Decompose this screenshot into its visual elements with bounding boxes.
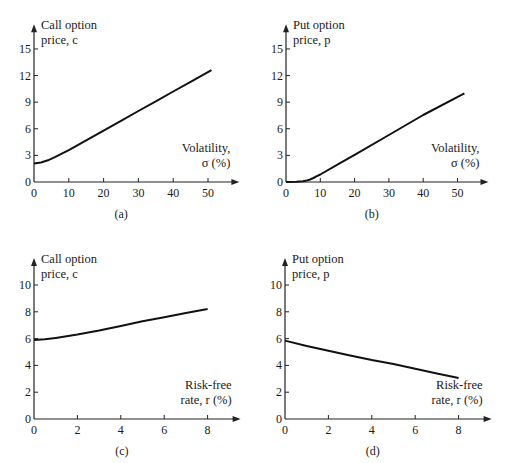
y-tick-label: 12 [271,69,283,83]
y-tick-label: 10 [270,278,282,292]
y-tick-label: 0 [277,175,283,189]
y-arrow-icon [283,24,289,32]
y-axis-label: Put option [293,18,345,32]
y-tick-label: 2 [25,385,31,399]
x-tick-label: 2 [74,423,80,437]
x-tick-label: 30 [132,186,144,200]
x-tick-label: 6 [412,423,418,437]
x-tick-label: 10 [63,186,75,200]
chart-d: 024680246810Put optionprice, pRisk-freer… [270,252,492,458]
y-tick-label: 9 [277,95,283,109]
y-tick-label: 0 [25,412,31,426]
x-axis-label: rate, r (%) [432,393,483,407]
x-tick-label: 10 [314,186,326,200]
data-line [34,309,208,340]
x-tick-label: 0 [283,186,289,200]
x-axis-label: Risk-free [185,378,232,392]
x-tick-label: 20 [349,186,361,200]
y-tick-label: 9 [25,95,31,109]
x-tick-label: 0 [31,423,37,437]
x-arrow-icon [481,179,489,185]
x-tick-label: 6 [161,423,167,437]
y-arrow-icon [31,24,37,32]
y-tick-label: 6 [25,332,31,346]
x-tick-label: 50 [452,186,464,200]
data-line [286,93,464,182]
y-axis-label: price, c [41,267,78,281]
chart-a: 0102030405003691215Call optionprice, cVo… [19,18,239,221]
x-axis-label: Volatility, [182,141,231,155]
y-tick-label: 3 [277,148,283,162]
x-arrow-icon [484,416,492,422]
y-arrow-icon [31,258,37,266]
y-tick-label: 0 [276,412,282,426]
y-axis-label: Call option [41,18,98,32]
y-axis-label: price, c [41,33,78,47]
x-tick-label: 0 [31,186,37,200]
y-axis-label: price, p [293,33,330,47]
y-axis-label: price, p [292,267,329,281]
data-line [285,341,459,379]
y-tick-label: 8 [25,305,31,319]
y-tick-label: 15 [19,42,31,56]
x-arrow-icon [233,416,241,422]
y-tick-label: 6 [277,122,283,136]
x-tick-label: 0 [282,423,288,437]
x-tick-label: 20 [98,186,110,200]
x-tick-label: 8 [205,423,211,437]
x-axis-label: σ (%) [451,156,480,170]
y-tick-label: 4 [25,358,31,372]
figure-canvas: 0102030405003691215Call optionprice, cVo… [0,0,515,463]
y-tick-label: 2 [276,385,282,399]
x-tick-label: 50 [202,186,214,200]
panel-caption: (c) [115,444,128,458]
y-tick-label: 8 [276,305,282,319]
panel-caption: (b) [365,207,379,221]
chart-c: 024680246810Call optionprice, cRisk-free… [19,252,241,458]
x-axis-label: Volatility, [431,141,480,155]
x-axis-label: rate, r (%) [181,393,232,407]
chart-b: 0102030405003691215Put optionprice, pVol… [271,18,489,221]
x-tick-label: 2 [325,423,331,437]
y-tick-label: 10 [19,278,31,292]
x-axis-label: σ (%) [202,156,231,170]
panel-caption: (a) [115,207,128,221]
x-tick-label: 8 [456,423,462,437]
x-axis-label: Risk-free [436,378,483,392]
y-arrow-icon [282,258,288,266]
x-arrow-icon [231,179,239,185]
y-tick-label: 3 [25,148,31,162]
x-tick-label: 30 [383,186,395,200]
y-axis-label: Call option [41,252,98,266]
y-tick-label: 12 [19,69,31,83]
panel-caption: (d) [366,444,380,458]
y-tick-label: 6 [25,122,31,136]
y-tick-label: 4 [276,358,282,372]
x-tick-label: 40 [167,186,179,200]
y-tick-label: 6 [276,332,282,346]
y-tick-label: 0 [25,175,31,189]
y-tick-label: 15 [271,42,283,56]
y-axis-label: Put option [292,252,344,266]
x-tick-label: 4 [369,423,375,437]
x-tick-label: 4 [118,423,124,437]
x-tick-label: 40 [417,186,429,200]
